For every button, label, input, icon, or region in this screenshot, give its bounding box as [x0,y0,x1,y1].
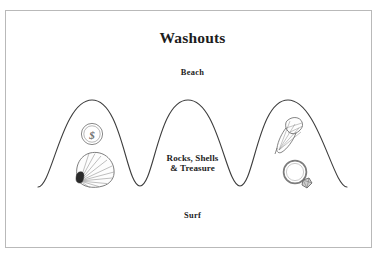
surf-label: Surf [0,211,385,220]
trough-contents-label: Rocks, Shells & Treasure [0,153,385,173]
beach-label: Beach [0,68,385,77]
figure-canvas: Washouts Beach Rocks, Shells & Treasure … [0,0,385,262]
page-title: Washouts [0,29,385,46]
trough-label-line-1: Rocks, Shells [167,153,219,163]
trough-label-line-2: & Treasure [0,163,385,173]
